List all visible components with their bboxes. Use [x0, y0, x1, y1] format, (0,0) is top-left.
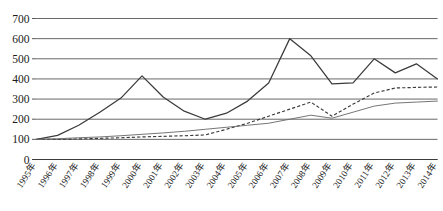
x-axis-tick-label: 1997年: [56, 161, 80, 190]
y-axis-tickmarks-group: [32, 19, 37, 160]
x-axis-tick-label: 2007年: [267, 161, 291, 190]
x-axis-tick-label: 1996年: [35, 161, 59, 190]
y-axis-tick-label: 400: [12, 73, 30, 85]
x-axis-tick-label: 2004年: [204, 161, 228, 190]
y-axis-labels-group: 7006005004003002001000: [12, 13, 30, 166]
chart-canvas: 7006005004003002001000 1995年1996年1997年19…: [0, 0, 443, 211]
data-series-group: [37, 39, 438, 140]
x-axis-tick-label: 2006年: [246, 161, 270, 190]
x-axis-tick-label: 2012年: [373, 161, 397, 190]
x-axis-tick-label: 2002年: [161, 161, 185, 190]
y-axis-tick-label: 600: [12, 33, 30, 45]
y-axis-tick-label: 300: [12, 93, 30, 105]
data-series-line: [37, 87, 438, 139]
x-axis-tick-label: 2013年: [394, 161, 418, 190]
x-axis-tick-label: 2000年: [119, 161, 143, 190]
data-series-line: [37, 39, 438, 140]
y-axis-tick-label: 700: [12, 13, 30, 25]
x-axis-tick-label: 2001年: [140, 161, 164, 190]
x-axis-tick-label: 2014年: [415, 161, 439, 190]
x-axis-tick-label: 1999年: [98, 161, 122, 190]
x-axis-tick-label: 2011年: [352, 161, 376, 190]
y-axis-tick-label: 500: [12, 53, 30, 65]
line-chart-figure: 7006005004003002001000 1995年1996年1997年19…: [0, 0, 443, 211]
y-axis-tick-label: 200: [12, 113, 30, 125]
x-axis-tick-label: 2010年: [330, 161, 354, 190]
x-axis-tick-label: 2009年: [309, 161, 333, 190]
y-axis-tick-label: 100: [12, 133, 30, 145]
x-axis-tick-label: 1998年: [77, 161, 101, 190]
x-axis-tick-label: 2008年: [288, 161, 312, 190]
x-axis-tick-label: 2005年: [225, 161, 249, 190]
x-axis-labels-group: 1995年1996年1997年1998年1999年2000年2001年2002年…: [14, 161, 439, 190]
x-axis-tick-label: 2003年: [183, 161, 207, 190]
